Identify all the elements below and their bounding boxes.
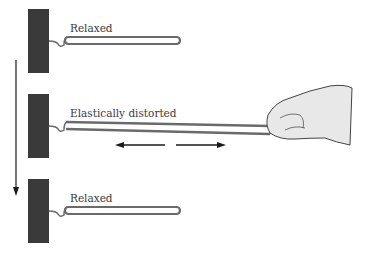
arrow-left-icon (115, 142, 165, 148)
arrow-right-icon (176, 142, 226, 148)
diagram-canvas (0, 0, 370, 254)
hand-icon (267, 85, 352, 145)
rubber-band-icon (49, 37, 180, 46)
rubber-band-icon (49, 207, 180, 216)
rubber-band-icon (49, 122, 270, 134)
arrow-down-icon (13, 60, 19, 196)
